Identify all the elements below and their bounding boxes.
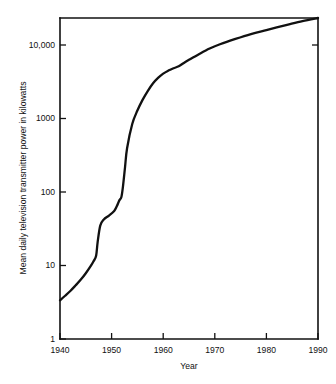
y-tick-label-1: 1: [50, 334, 55, 344]
chart-figure: 1 10 100 1000 10,000 1940 1950 1960 1970…: [0, 0, 336, 384]
x-tick-label-1940: 1940: [50, 345, 69, 355]
x-tick-label-1970: 1970: [205, 345, 224, 355]
x-tick-label-1990: 1990: [308, 345, 327, 355]
x-axis-ticks: [60, 333, 318, 339]
y-tick-label-10000: 10,000: [29, 40, 56, 50]
line-chart: 1 10 100 1000 10,000 1940 1950 1960 1970…: [0, 0, 336, 384]
series-line-transmitter-power: [60, 18, 318, 300]
y-tick-label-100: 100: [41, 187, 56, 197]
y-tick-label-10: 10: [45, 260, 55, 270]
x-tick-label-1960: 1960: [154, 345, 173, 355]
x-tick-label-1950: 1950: [102, 345, 121, 355]
x-tick-label-1980: 1980: [257, 345, 276, 355]
y-tick-label-1000: 1000: [36, 113, 55, 123]
x-axis-title: Year: [180, 361, 198, 371]
y-axis-title: Mean daily television transmitter power …: [18, 82, 28, 275]
